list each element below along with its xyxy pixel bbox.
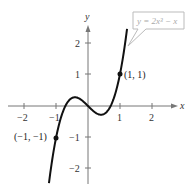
point-label-m1-m1: (−1, −1) bbox=[14, 131, 47, 143]
x-tick-label: −1 bbox=[49, 112, 60, 123]
equation-label: y = 2x³ − x bbox=[136, 16, 177, 26]
point-1-1 bbox=[118, 72, 123, 77]
y-axis-arrow-icon bbox=[86, 25, 91, 32]
x-axis-arrow-icon bbox=[171, 104, 178, 109]
y-tick-label: 2 bbox=[75, 38, 80, 49]
point-label-1-1: (1, 1) bbox=[124, 69, 146, 81]
x-tick-label: 2 bbox=[149, 112, 154, 123]
y-tick-label: −2 bbox=[69, 163, 80, 174]
x-tick-label: −2 bbox=[17, 112, 28, 123]
x-axis-label: x bbox=[179, 100, 185, 111]
y-tick-label: 1 bbox=[75, 69, 80, 80]
y-axis-label: y bbox=[84, 11, 90, 22]
x-tick-label: 1 bbox=[117, 112, 122, 123]
y-tick-label: −1 bbox=[69, 132, 80, 143]
chart-canvas: x y −2 −1 1 2 2 1 −1 −2 (1, 1) (−1, −1) … bbox=[0, 0, 193, 192]
point-m1-m1 bbox=[54, 136, 59, 141]
